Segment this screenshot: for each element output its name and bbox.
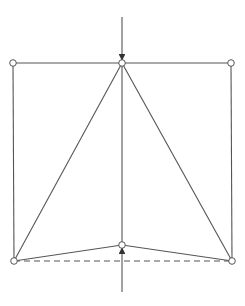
member-bottom-center-bottom-right [122, 245, 232, 261]
member-top-center-bottom-right [122, 63, 232, 261]
member-top-right-bottom-right [231, 63, 232, 261]
joint-bottom-left [11, 258, 18, 265]
member-bottom-left-bottom-center [14, 245, 122, 261]
joint-top-right [228, 60, 235, 67]
joint-top-center [119, 60, 126, 67]
member-top-center-bottom-left [14, 63, 122, 261]
joint-bottom-center [119, 242, 126, 249]
joint-top-left [10, 60, 17, 67]
truss-members [13, 63, 232, 261]
truss-diagram [0, 0, 245, 306]
joint-bottom-right [229, 258, 236, 265]
member-top-left-bottom-left [13, 63, 14, 261]
